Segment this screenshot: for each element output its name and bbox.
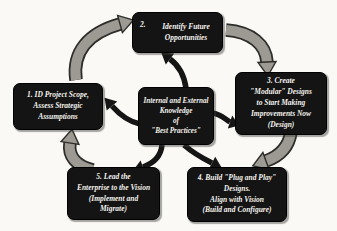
step-2-box: 2. Identify Future Opportunities: [132, 12, 223, 53]
cycle-arrow-step3-to-step4-icon: [253, 132, 291, 170]
step-3-box: 3. Create "Modular" Designs to Start Mak…: [235, 72, 327, 135]
step-5-box: 5. Lead the Enterprise to the Vision (Im…: [67, 167, 160, 220]
step-4-box: 4. Build "Plug and Play" Designs. Align …: [187, 167, 287, 222]
step-2-number: 2.: [137, 20, 154, 31]
center-arrow-to-step4-icon: [184, 145, 222, 169]
center-knowledge-label: Internal and External Knowledge of "Best…: [143, 96, 209, 136]
center-arrow-to-step1-icon: [105, 98, 141, 124]
cycle-arrow-step1-to-step2-icon: [75, 15, 133, 80]
cycle-arrow-step2-to-step3-icon: [226, 30, 276, 76]
step-2-label: Identify Future Opportunities: [154, 22, 218, 44]
step-5-label: 5. Lead the Enterprise to the Vision (Im…: [72, 172, 155, 216]
center-arrow-to-step2-icon: [161, 52, 186, 88]
process-cycle-diagram: 1. ID Project Scope, Assess Strategic As…: [0, 0, 337, 231]
cycle-arrow-step5-to-step1-icon: [61, 129, 93, 170]
step-4-label: 4. Build "Plug and Play" Designs. Align …: [192, 173, 282, 217]
step-1-box: 1. ID Project Scope, Assess Strategic As…: [13, 83, 103, 130]
step-1-label: 1. ID Project Scope, Assess Strategic As…: [18, 90, 98, 123]
center-knowledge-box: Internal and External Knowledge of "Best…: [138, 87, 214, 145]
step-3-label: 3. Create "Modular" Designs to Start Mak…: [240, 76, 322, 130]
